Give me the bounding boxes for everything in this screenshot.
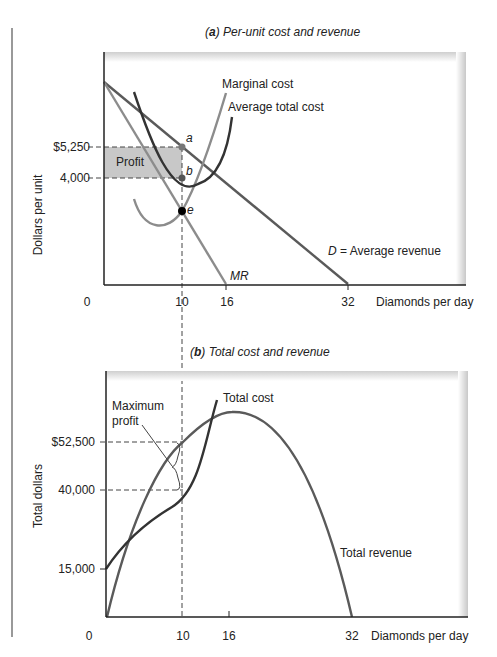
xtick-16-a: 16 [220, 295, 234, 309]
xtick-32-b: 32 [345, 629, 359, 643]
point-a-label: a [186, 131, 193, 145]
frame-top-shade [104, 52, 466, 62]
demand-label: D = Average revenue [328, 244, 441, 258]
xlabel-b: Diamonds per day [371, 629, 468, 643]
ytick-52500: $52,500 [52, 435, 96, 449]
xtick-10-b: 10 [176, 629, 190, 643]
point-a [179, 144, 186, 151]
profit-label: Profit [116, 155, 145, 169]
ytick-40000: 40,000 [58, 483, 95, 497]
xtick-0-b: 0 [86, 629, 93, 643]
point-e [178, 207, 186, 215]
panel-b: (b) Total cost and revenue Maximum profi… [31, 345, 468, 643]
frame-top-shade-b [106, 371, 468, 381]
xtick-0-a: 0 [84, 295, 91, 309]
figure: (a) Per-unit cost and revenue Profit a b… [0, 0, 497, 657]
max-profit-label-2: profit [112, 414, 139, 428]
ytick-15000: 15,000 [58, 562, 95, 576]
point-b [179, 175, 186, 182]
xtick-32-a: 32 [341, 295, 355, 309]
point-b-label: b [186, 164, 193, 178]
xtick-10-a: 10 [175, 295, 189, 309]
mr-curve [104, 82, 226, 284]
max-profit-leader [142, 425, 172, 466]
max-profit-label-1: Maximum [112, 399, 164, 413]
panel-a-title: (a) Per-unit cost and revenue [205, 25, 361, 39]
tr-label: Total revenue [340, 546, 412, 560]
panel-b-title: (b) Total cost and revenue [190, 345, 330, 359]
atc-label: Average total cost [228, 100, 325, 114]
panel-a: (a) Per-unit cost and revenue Profit a b… [31, 25, 473, 617]
total-revenue-curve [107, 412, 352, 617]
ylabel-a: Dollars per unit [31, 174, 45, 255]
xlabel-a: Diamonds per day [376, 295, 473, 309]
xtick-16-b: 16 [222, 629, 236, 643]
ytick-5250: $5,250 [53, 140, 90, 154]
frame-right-shade [456, 52, 466, 285]
mc-label: Marginal cost [222, 77, 294, 91]
ylabel-b: Total dollars [31, 464, 45, 528]
tc-label: Total cost [223, 391, 274, 405]
point-e-label: e [187, 203, 194, 217]
frame-right-shade-b [458, 371, 468, 617]
ytick-4000: 4,000 [60, 171, 90, 185]
mr-label: MR [230, 269, 249, 283]
